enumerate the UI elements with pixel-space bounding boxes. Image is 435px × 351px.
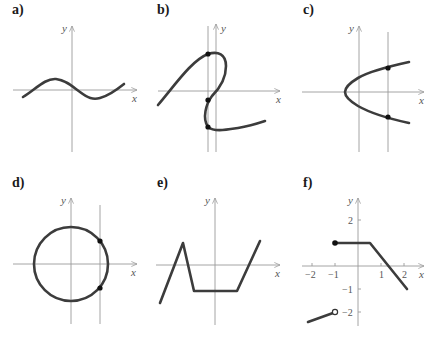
graph-b: x y xyxy=(158,22,281,152)
y-axis-label: y xyxy=(61,22,67,34)
x-axis-label: x xyxy=(418,268,424,280)
sideways-parabola xyxy=(345,62,409,123)
intersection-point xyxy=(205,124,210,129)
intersection-point xyxy=(205,51,210,56)
x-axis-label: x xyxy=(131,92,137,104)
graphs-canvas: x y x y x y xyxy=(0,0,435,351)
x-axis-label: x xyxy=(274,267,280,279)
segment-lower xyxy=(308,313,333,322)
x-tick-label: 2 xyxy=(402,269,407,280)
x-axis-label: x xyxy=(275,93,281,105)
graph-c: x y xyxy=(302,22,424,152)
filled-endpoint xyxy=(332,240,338,246)
x-tick-label: 1 xyxy=(379,269,384,280)
graph-f: −2 −1 1 2 2 −1 −2 x y xyxy=(302,194,424,326)
sine-curve xyxy=(23,79,124,99)
s-curve xyxy=(158,53,265,130)
y-axis-label: y xyxy=(204,194,210,206)
graph-d: x y xyxy=(13,194,137,324)
x-axis-label: x xyxy=(130,266,136,278)
open-endpoint xyxy=(332,309,337,314)
x-tick-label: −2 xyxy=(305,269,316,280)
x-tick-label: −1 xyxy=(328,269,339,280)
y-axis-label: y xyxy=(60,194,66,206)
intersection-point xyxy=(97,238,102,243)
vertical-line-test-figure: a) b) c) d) e) f) x y x y xyxy=(0,0,435,351)
y-axis-label: y xyxy=(220,22,226,34)
graph-e: x y xyxy=(156,194,280,325)
y-tick-label: −2 xyxy=(342,307,353,318)
intersection-point xyxy=(97,285,102,290)
y-tick-label: 2 xyxy=(348,215,353,226)
x-axis-label: x xyxy=(418,94,424,106)
intersection-point xyxy=(385,65,390,70)
intersection-point xyxy=(385,114,390,119)
zigzag-curve xyxy=(160,241,260,303)
graph-a: x y xyxy=(13,22,137,152)
intersection-point xyxy=(205,97,210,102)
y-axis-label: y xyxy=(348,22,354,34)
y-axis-label: y xyxy=(347,194,353,206)
y-tick-label: −1 xyxy=(342,284,353,295)
